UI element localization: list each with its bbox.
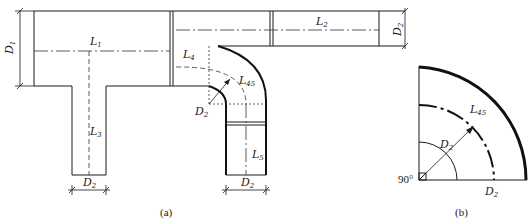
main-trunk-outline	[34, 11, 405, 86]
label-D2-right-branch: D2	[240, 176, 255, 190]
part-b-bend-detail: L45 D2 D2 90° (b)	[398, 66, 527, 219]
part-a-duct-layout: L1 L2 L3 L4 L5 L45 D2 D2 D2 D1 D2 (a)	[3, 8, 408, 219]
label-D2-base: D2	[484, 185, 499, 199]
left-branch-L3	[72, 51, 106, 175]
label-D1: D1	[3, 41, 17, 55]
label-D2-right: D2	[391, 22, 405, 37]
label-D2-radius: D2	[439, 138, 454, 152]
label-L5: L5	[251, 148, 264, 162]
label-L4: L4	[182, 48, 195, 62]
duct-fitting-diagram: L1 L2 L3 L4 L5 L45 D2 D2 D2 D1 D2 (a) L4…	[0, 0, 531, 224]
label-D2-left-branch: D2	[82, 176, 97, 190]
label-L2: L2	[315, 15, 328, 29]
label-L45-b: L45	[469, 103, 487, 117]
outer-arc	[419, 67, 526, 180]
label-L3: L3	[89, 125, 102, 139]
joint-line-L4-L2	[270, 11, 273, 46]
joint-line-L1-L4	[170, 11, 173, 86]
radius-arrow	[419, 127, 473, 180]
caption-b: (b)	[455, 206, 468, 219]
label-90-degree: 90°	[398, 173, 413, 185]
label-D2-bend: D2	[194, 105, 209, 119]
caption-a: (a)	[160, 206, 173, 219]
label-L1: L1	[89, 35, 102, 49]
right-branch-L5	[226, 104, 266, 175]
dimension-D1	[15, 8, 34, 89]
label-L45: L45	[238, 74, 256, 88]
